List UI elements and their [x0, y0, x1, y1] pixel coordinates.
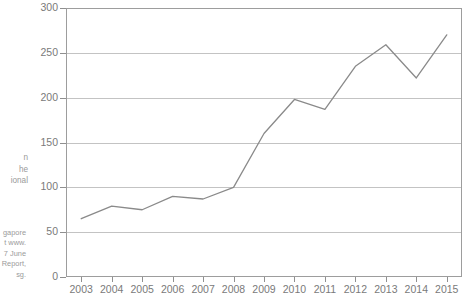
y-tick-label: 100	[40, 180, 58, 192]
y-tick-label: 50	[46, 225, 58, 237]
x-tick-mark	[325, 277, 326, 282]
x-tick-mark	[142, 277, 143, 282]
y-tick-label: 150	[40, 136, 58, 148]
line-chart: 050100150200250300 200320042005200620072…	[0, 0, 473, 299]
y-tick-mark	[60, 277, 66, 278]
x-tick-mark	[112, 277, 113, 282]
x-tick-mark	[294, 277, 295, 282]
y-tick-label: 300	[40, 1, 58, 13]
y-tick-label: 200	[40, 91, 58, 103]
x-tick-mark	[203, 277, 204, 282]
x-tick-mark	[264, 277, 265, 282]
plot-frame	[66, 8, 462, 277]
x-tick-mark	[173, 277, 174, 282]
x-tick-mark	[234, 277, 235, 282]
x-tick-mark	[355, 277, 356, 282]
x-tick-mark	[447, 277, 448, 282]
y-tick-label: 0	[52, 270, 58, 282]
x-tick-label: 2015	[425, 283, 469, 295]
y-tick-label: 250	[40, 46, 58, 58]
x-tick-mark	[416, 277, 417, 282]
x-tick-mark	[81, 277, 82, 282]
x-tick-mark	[386, 277, 387, 282]
